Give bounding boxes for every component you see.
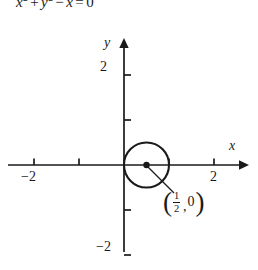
x-tick-label-2: 2: [210, 170, 217, 184]
y-axis-label: y: [104, 36, 110, 50]
coordinate-y-value: 0: [188, 195, 195, 209]
open-paren: (: [163, 193, 172, 212]
equation-minus-operator: −: [53, 0, 66, 10]
y-tick-label-2: 2: [100, 60, 107, 74]
coordinate-plane: [0, 30, 258, 270]
close-paren: ): [196, 193, 205, 212]
fraction-numerator: 1: [174, 190, 179, 201]
equation-right-hand-side: 0: [86, 0, 94, 10]
y-axis-arrowhead: [119, 38, 128, 48]
x-axis-arrowhead: [239, 160, 249, 169]
coordinate-separator: ,: [183, 200, 187, 215]
equation-plus-operator: +: [28, 0, 41, 10]
fraction-one-half: 1 2: [173, 190, 180, 215]
y-axis: [119, 38, 131, 255]
x-tick-label-minus-2: −2: [21, 170, 36, 184]
equation-label: x2+y2−x=0: [16, 0, 94, 11]
point-coordinate-label: ( 1 2 , 0 ): [163, 190, 205, 215]
equation-term-x-squared-base: x: [16, 0, 23, 10]
equation-equals-sign: =: [73, 0, 86, 10]
x-axis-label: x: [229, 139, 235, 153]
y-tick-label-minus-2: −2: [96, 240, 111, 254]
fraction-denominator: 2: [174, 203, 179, 214]
math-figure: x2+y2−x=0 y x: [0, 0, 258, 270]
